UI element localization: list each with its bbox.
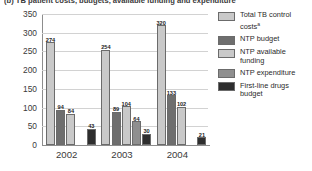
y-axis-tick-100: 100: [8, 104, 37, 112]
bar-value-label: 43: [88, 123, 94, 129]
bar-value-label: 84: [68, 108, 74, 114]
bar-2003-ntp_expenditure[interactable]: 64: [132, 121, 141, 145]
legend-item-total_tb_control_costs[interactable]: Total TB control costsa: [218, 11, 312, 32]
bar-2002-ntp_budget[interactable]: 94: [56, 110, 65, 145]
legend-item-label: First-line drugs budget: [240, 82, 312, 99]
legend-swatch-icon: [218, 36, 235, 45]
legend-swatch-icon: [218, 49, 235, 58]
bar-2004-ntp_budget[interactable]: 133: [167, 95, 176, 145]
y-axis-tick-200: 200: [8, 66, 37, 74]
legend-item-ntp_budget[interactable]: NTP budget: [218, 35, 312, 45]
legend-item-ntp_expenditure[interactable]: NTP expenditure: [218, 69, 312, 79]
bar-value-label: 274: [46, 37, 55, 43]
bar-value-label: 320: [156, 20, 165, 26]
legend-footnote-marker: a: [257, 21, 260, 27]
y-axis-tick-150: 150: [8, 85, 37, 93]
bar-group-2004: 32013310221: [157, 14, 212, 145]
legend-item-label: NTP available funding: [240, 48, 312, 65]
bar-2003-ntp_available_funding[interactable]: 104: [122, 106, 131, 145]
legend-item-label: NTP budget: [240, 35, 279, 44]
bar-value-label: 104: [122, 101, 131, 107]
bar-value-label: 102: [177, 101, 186, 107]
legend-item-first_line_drugs_budget[interactable]: First-line drugs budget: [218, 82, 312, 99]
y-axis-tick-250: 250: [8, 47, 37, 55]
bar-2004-total_tb_control_costs[interactable]: 320: [157, 25, 166, 145]
bar-2002-ntp_available_funding[interactable]: 84: [66, 114, 75, 145]
y-axis-tick-0: 0: [8, 141, 37, 149]
x-axis-line: [42, 145, 210, 146]
y-axis-tick-300: 300: [8, 29, 37, 37]
bar-2003-total_tb_control_costs[interactable]: 254: [101, 50, 110, 145]
legend-swatch-icon: [218, 69, 235, 78]
bar-2003-first_line_drugs_budget[interactable]: 30: [142, 134, 151, 145]
bar-value-label: 64: [133, 116, 139, 122]
bar-value-label: 89: [113, 106, 119, 112]
bar-value-label: 30: [144, 128, 150, 134]
bar-2004-first_line_drugs_budget[interactable]: 21: [197, 137, 206, 145]
chart-figure: (b) TB patient costs, budgets, available…: [0, 0, 312, 171]
legend-item-label: NTP expenditure: [240, 69, 295, 78]
bar-2003-ntp_budget[interactable]: 89: [112, 112, 121, 145]
y-axis-tick-350: 350: [8, 10, 37, 18]
x-axis-tick-2002: 2002: [42, 149, 92, 160]
legend-item-ntp_available_funding[interactable]: NTP available funding: [218, 48, 312, 65]
bar-2004-ntp_available_funding[interactable]: 102: [177, 107, 186, 145]
bar-group-2003: 254891046430: [101, 14, 156, 145]
legend-swatch-icon: [218, 12, 235, 21]
chart-legend: Total TB control costsaNTP budgetNTP ava…: [218, 11, 312, 103]
bar-value-label: 133: [167, 90, 176, 96]
bar-2002-total_tb_control_costs[interactable]: 274: [46, 42, 55, 145]
legend-item-label: Total TB control costsa: [240, 11, 312, 32]
bar-value-label: 254: [101, 44, 110, 50]
x-axis-tick-2004: 2004: [152, 149, 202, 160]
x-axis-tick-2003: 2003: [97, 149, 147, 160]
y-axis-tick-50: 50: [8, 122, 37, 130]
bar-value-label: 21: [199, 132, 205, 138]
bar-group-2002: 274948443: [46, 14, 101, 145]
legend-swatch-icon: [218, 82, 235, 91]
bar-2002-first_line_drugs_budget[interactable]: 43: [87, 129, 96, 145]
plot-area: 27494844325489104643032013310221: [42, 14, 208, 145]
bar-value-label: 94: [58, 104, 64, 110]
